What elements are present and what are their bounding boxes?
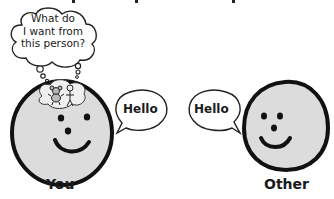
thought-line-2: I want from (18, 25, 88, 38)
other-face (244, 82, 328, 170)
you-face (12, 80, 112, 185)
other-speech-text: Hello (194, 102, 229, 116)
thought-bubble-text: What do I want from this person? (18, 12, 88, 50)
cropped-top-text (72, 0, 235, 3)
you-speech-text: Hello (123, 102, 158, 116)
you-label: You (46, 176, 74, 192)
illustration: What do I want from this person? Hello H… (0, 0, 334, 199)
thought-line-1: What do (18, 12, 88, 25)
thought-line-3: this person? (18, 37, 88, 50)
other-label: Other (264, 176, 309, 192)
